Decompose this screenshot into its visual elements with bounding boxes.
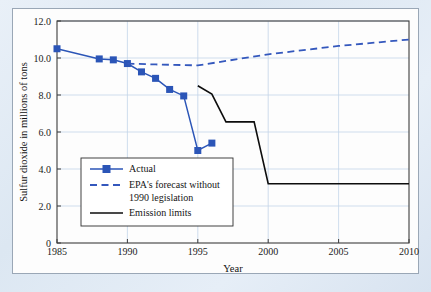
- data-point-marker: [180, 92, 187, 99]
- legend-item-label: 1990 legislation: [129, 192, 193, 203]
- x-tick-label: 2010: [399, 246, 419, 257]
- data-point-marker: [152, 75, 159, 82]
- legend-item-label: Actual: [129, 163, 156, 174]
- y-tick-label: 12.0: [34, 16, 52, 27]
- y-tick-label: 8.0: [39, 90, 52, 101]
- legend-item-label: EPA's forecast without: [129, 179, 220, 190]
- y-tick-label: 10.0: [34, 53, 52, 64]
- x-tick-label: 1990: [117, 246, 137, 257]
- y-tick-label: 4.0: [39, 164, 52, 175]
- y-tick-label: 0: [46, 238, 51, 249]
- data-point-marker: [110, 56, 117, 63]
- x-tick-label: 2000: [258, 246, 278, 257]
- data-point-marker: [194, 147, 201, 154]
- x-tick-label: 2005: [329, 246, 349, 257]
- data-point-marker: [138, 68, 145, 75]
- y-tick-label: 2.0: [39, 201, 52, 212]
- y-tick-label: 6.0: [39, 127, 52, 138]
- data-point-marker: [96, 55, 103, 62]
- x-tick-label: 1995: [188, 246, 208, 257]
- legend-item: 1990 legislation: [129, 192, 193, 203]
- legend-item-label: Emission limits: [129, 207, 192, 218]
- data-point-marker: [54, 45, 61, 52]
- y-axis-tick-labels: 02.04.06.08.010.012.0: [34, 16, 52, 249]
- chart-area: 198519901995200020052010 02.04.06.08.010…: [0, 0, 431, 292]
- series-actual-line: [57, 49, 212, 151]
- legend-swatch-actual-marker: [103, 165, 111, 173]
- x-axis-title: Year: [223, 263, 243, 274]
- series-actual-markers: [54, 45, 216, 154]
- y-axis-title: Sulfur dioxide in millions of tons: [18, 62, 29, 202]
- sulfur-dioxide-line-chart: 198519901995200020052010 02.04.06.08.010…: [0, 0, 431, 292]
- chart-legend: ActualEPA's forecast without1990 legisla…: [81, 158, 233, 226]
- figure-root: 198519901995200020052010 02.04.06.08.010…: [0, 0, 431, 292]
- x-axis-tick-labels: 198519901995200020052010: [47, 246, 419, 257]
- data-point-marker: [208, 140, 215, 147]
- data-point-marker: [166, 86, 173, 93]
